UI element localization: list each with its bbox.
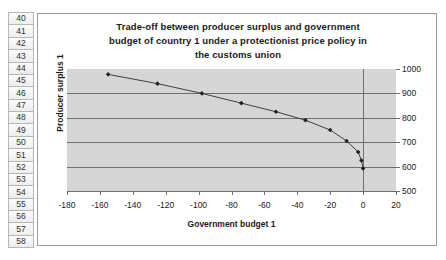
x-tick-label--160: -160	[83, 200, 117, 210]
row-header-48[interactable]: 48	[8, 112, 34, 124]
row-header-45[interactable]: 45	[8, 75, 34, 87]
y-tick-label-800: 800	[402, 113, 432, 123]
row-header-50[interactable]: 50	[8, 137, 34, 149]
y-axis-title: Producer surplus 1	[55, 33, 65, 153]
x-tick-label--80: -80	[215, 200, 249, 210]
row-header-56[interactable]: 56	[8, 211, 34, 223]
row-header-51[interactable]: 51	[8, 149, 34, 161]
spreadsheet-row-header-gutter[interactable]: 40414243444546474849505152535455565758	[8, 12, 34, 248]
y-tick-800	[396, 118, 400, 119]
data-point-10[interactable]	[361, 166, 366, 171]
y-tick-label-1000: 1000	[402, 64, 432, 74]
x-tick--80	[232, 191, 233, 195]
row-header-40[interactable]: 40	[8, 12, 34, 25]
x-tick-label--60: -60	[247, 200, 281, 210]
data-point-1[interactable]	[155, 81, 160, 86]
x-tick--120	[166, 191, 167, 195]
x-tick-label-0: 0	[346, 200, 380, 210]
x-tick--180	[67, 191, 68, 195]
chart-series-layer	[67, 69, 396, 191]
chart-title-line-1: Trade-off between producer surplus and g…	[56, 20, 420, 34]
x-tick-label--100: -100	[182, 200, 216, 210]
y-tick-700	[396, 142, 400, 143]
row-header-55[interactable]: 55	[8, 199, 34, 211]
row-header-49[interactable]: 49	[8, 124, 34, 136]
x-tick--100	[199, 191, 200, 195]
chart-title-line-3: the customs union	[56, 48, 420, 62]
y-tick-label-500: 500	[402, 186, 432, 196]
row-header-53[interactable]: 53	[8, 174, 34, 186]
y-tick-1000	[396, 69, 400, 70]
x-tick-label--40: -40	[280, 200, 314, 210]
data-point-2[interactable]	[200, 91, 205, 96]
x-tick--20	[330, 191, 331, 195]
spreadsheet-chart-screenshot: 40414243444546474849505152535455565758 T…	[0, 0, 446, 260]
x-tick-label--120: -120	[149, 200, 183, 210]
row-header-42[interactable]: 42	[8, 38, 34, 50]
x-tick--60	[264, 191, 265, 195]
data-point-0[interactable]	[106, 72, 111, 77]
x-tick--40	[297, 191, 298, 195]
y-tick-label-700: 700	[402, 137, 432, 147]
data-point-3[interactable]	[239, 101, 244, 106]
row-header-47[interactable]: 47	[8, 100, 34, 112]
x-tick-label-20: 20	[379, 200, 413, 210]
x-tick--160	[100, 191, 101, 195]
row-header-52[interactable]: 52	[8, 162, 34, 174]
row-header-43[interactable]: 43	[8, 50, 34, 62]
chart-object-frame[interactable]: Trade-off between producer surplus and g…	[37, 13, 437, 246]
row-header-41[interactable]: 41	[8, 25, 34, 37]
chart-title: Trade-off between producer surplus and g…	[56, 20, 420, 62]
y-tick-label-900: 900	[402, 88, 432, 98]
row-header-44[interactable]: 44	[8, 63, 34, 75]
row-header-58[interactable]: 58	[8, 236, 34, 248]
y-tick-label-600: 600	[402, 162, 432, 172]
x-tick-label--180: -180	[50, 200, 84, 210]
data-point-4[interactable]	[274, 109, 279, 114]
x-tick--140	[133, 191, 134, 195]
y-tick-900	[396, 93, 400, 94]
y-tick-500	[396, 191, 400, 192]
row-header-46[interactable]: 46	[8, 87, 34, 99]
x-tick-label--140: -140	[116, 200, 150, 210]
x-axis-title: Government budget 1	[67, 219, 396, 229]
chart-title-line-2: budget of country 1 under a protectionis…	[56, 34, 420, 48]
series-line-producer-surplus-1	[108, 74, 363, 168]
row-header-54[interactable]: 54	[8, 186, 34, 198]
data-point-5[interactable]	[303, 118, 308, 123]
y-tick-600	[396, 167, 400, 168]
row-header-57[interactable]: 57	[8, 223, 34, 235]
data-point-9[interactable]	[359, 158, 364, 163]
x-tick-label--20: -20	[313, 200, 347, 210]
x-tick-0	[363, 191, 364, 195]
